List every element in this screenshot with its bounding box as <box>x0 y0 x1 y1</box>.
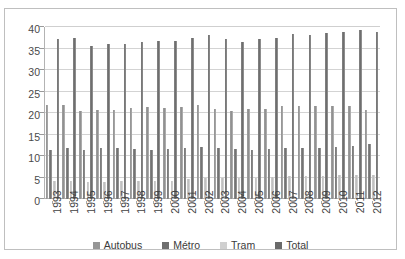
x-axis-cell: 2009 <box>313 201 330 239</box>
x-axis-cell: 2010 <box>330 201 347 239</box>
bar-group <box>44 27 61 199</box>
bar-group <box>330 27 347 199</box>
x-axis-cell: 1999 <box>145 201 162 239</box>
bar-total-1995 <box>90 46 93 199</box>
x-axis-cell: 2001 <box>178 201 195 239</box>
x-axis-cell: 1997 <box>111 201 128 239</box>
bar-autobus-2012 <box>365 110 368 199</box>
bar-autobus-1999 <box>146 107 149 199</box>
bar-autobus-2008 <box>298 106 301 199</box>
bar-group <box>128 27 145 199</box>
bar-autobus-2005 <box>247 109 250 199</box>
bar-group <box>61 27 78 199</box>
bar-group <box>111 27 128 199</box>
legend-label-tram: Tram <box>231 240 255 251</box>
x-axis-cell: 2012 <box>363 201 380 239</box>
x-axis-cell: 2002 <box>195 201 212 239</box>
bar-autobus-1997 <box>113 110 116 199</box>
bar-autobus-2002 <box>197 105 200 199</box>
x-axis-cell: 2000 <box>162 201 179 239</box>
bar-total-2003 <box>225 39 228 199</box>
y-axis-labels: 4035302520151050 <box>9 27 40 199</box>
bar-total-2009 <box>325 33 328 199</box>
chart-legend: AutobusMétroTramTotal <box>5 240 396 251</box>
legend-swatch-icon <box>275 242 282 249</box>
bar-group <box>313 27 330 199</box>
bar-total-2002 <box>208 35 211 199</box>
x-axis-cell: 2003 <box>212 201 229 239</box>
x-axis-label-2012: 2012 <box>372 190 383 213</box>
x-axis-cell: 1996 <box>94 201 111 239</box>
x-axis-cell: 1993 <box>44 201 61 239</box>
x-axis-cell: 1998 <box>128 201 145 239</box>
legend-item-metro[interactable]: Métro <box>162 240 200 251</box>
x-axis-cell: 2008 <box>296 201 313 239</box>
plot-area <box>44 27 380 199</box>
legend-swatch-icon <box>162 242 169 249</box>
bar-autobus-1994 <box>62 105 65 199</box>
bar-autobus-2004 <box>230 111 233 199</box>
bar-total-1997 <box>124 44 127 199</box>
bar-groups <box>44 27 380 199</box>
legend-item-autobus[interactable]: Autobus <box>93 240 143 251</box>
bar-total-1999 <box>157 41 160 199</box>
bar-autobus-1995 <box>79 111 82 199</box>
legend-swatch-icon <box>93 242 100 249</box>
bar-total-2007 <box>292 34 295 199</box>
legend-label-total: Total <box>286 240 308 251</box>
bar-group <box>246 27 263 199</box>
bar-group <box>346 27 363 199</box>
x-axis-cell: 1994 <box>61 201 78 239</box>
legend-item-tram[interactable]: Tram <box>220 240 255 251</box>
bar-total-2011 <box>359 30 362 199</box>
bar-group <box>229 27 246 199</box>
bar-autobus-2000 <box>163 108 166 199</box>
bar-autobus-1998 <box>130 108 133 199</box>
bar-autobus-2001 <box>180 107 183 199</box>
bar-group <box>78 27 95 199</box>
bar-group <box>212 27 229 199</box>
bar-autobus-1996 <box>96 110 99 199</box>
bar-total-1998 <box>141 42 144 199</box>
legend-label-autobus: Autobus <box>104 240 143 251</box>
bar-group <box>262 27 279 199</box>
bar-total-2001 <box>191 38 194 199</box>
legend-label-metro: Métro <box>173 240 200 251</box>
bar-total-1996 <box>107 44 110 199</box>
cropped-title-sliver <box>150 0 260 5</box>
bar-autobus-2010 <box>331 106 334 199</box>
bar-autobus-2009 <box>314 106 317 199</box>
bar-group <box>296 27 313 199</box>
bar-group <box>94 27 111 199</box>
bar-autobus-2007 <box>281 106 284 199</box>
bar-group <box>178 27 195 199</box>
bar-group <box>363 27 380 199</box>
bar-autobus-2003 <box>214 109 217 199</box>
x-axis-cell: 2007 <box>279 201 296 239</box>
bar-total-2004 <box>241 42 244 199</box>
bar-total-2010 <box>342 32 345 199</box>
bar-total-2008 <box>309 35 312 199</box>
bar-total-2012 <box>376 32 379 199</box>
bar-autobus-2011 <box>348 106 351 199</box>
legend-swatch-icon <box>220 242 227 249</box>
bar-autobus-1993 <box>46 105 49 199</box>
x-axis-cell: 2006 <box>262 201 279 239</box>
chart-screenshot: 4035302520151050 19931994199519961997199… <box>0 0 405 259</box>
bar-group <box>279 27 296 199</box>
bar-group <box>195 27 212 199</box>
bar-total-2005 <box>258 39 261 199</box>
x-axis-cell: 2005 <box>246 201 263 239</box>
chart-frame: 4035302520151050 19931994199519961997199… <box>4 8 397 250</box>
legend-item-total[interactable]: Total <box>275 240 308 251</box>
x-axis-cell: 2011 <box>346 201 363 239</box>
bar-autobus-2006 <box>264 109 267 199</box>
bar-total-1993 <box>57 39 60 199</box>
bar-total-2006 <box>275 38 278 199</box>
x-axis-labels: 1993199419951996199719981999200020012002… <box>44 201 380 239</box>
x-axis-cell: 1995 <box>78 201 95 239</box>
bar-group <box>162 27 179 199</box>
x-axis-cell: 2004 <box>229 201 246 239</box>
bar-total-2000 <box>174 41 177 199</box>
bar-group <box>145 27 162 199</box>
